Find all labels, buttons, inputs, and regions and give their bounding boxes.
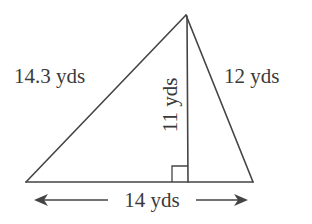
- base-label: 14 yds: [124, 188, 179, 212]
- base-dimension: 14 yds: [34, 188, 248, 212]
- right-side-label: 12 yds: [224, 64, 279, 88]
- right-angle-marker: [172, 166, 188, 182]
- left-side-label: 14.3 yds: [14, 64, 85, 88]
- triangle-diagram: 14.3 yds 12 yds 11 yds 14 yds: [0, 0, 312, 224]
- right-side-edge: [186, 15, 253, 182]
- altitude-line: [187, 16, 188, 182]
- height-label: 11 yds: [158, 78, 182, 133]
